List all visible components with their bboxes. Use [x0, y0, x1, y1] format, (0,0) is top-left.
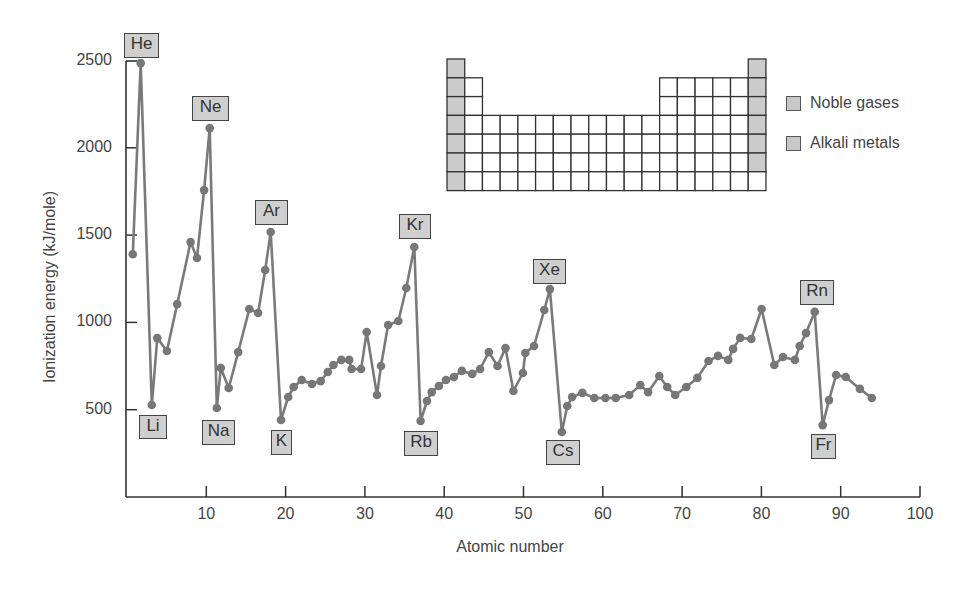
x-tick-label: 30 [345, 505, 385, 523]
data-point [791, 356, 800, 365]
data-point [163, 347, 172, 356]
label-li: Li [139, 415, 167, 439]
noble-cell [748, 78, 766, 97]
table-cell [482, 172, 500, 191]
table-cell [677, 115, 695, 134]
data-point [818, 421, 827, 430]
data-point [245, 305, 254, 314]
table-cell [695, 172, 713, 191]
data-point [284, 393, 293, 402]
data-point [410, 243, 419, 252]
data-point [578, 389, 587, 398]
table-cell [660, 97, 678, 116]
table-cell [642, 134, 660, 153]
data-point [373, 391, 382, 400]
table-cell [677, 134, 695, 153]
data-point [458, 367, 467, 376]
data-point [362, 328, 371, 337]
noble-cell [748, 97, 766, 116]
data-point [377, 362, 386, 371]
alkali-cell [447, 153, 465, 172]
alkali-cell [447, 59, 465, 78]
data-point [423, 397, 432, 406]
x-tick-label: 50 [504, 505, 544, 523]
legend: Noble gases Alkali metals [786, 92, 900, 172]
data-point [868, 394, 877, 403]
data-point [234, 348, 243, 357]
noble-cell [748, 134, 766, 153]
data-point [671, 391, 680, 400]
data-point [509, 387, 518, 396]
data-point [682, 383, 691, 392]
data-point [563, 402, 572, 411]
table-cell [731, 153, 749, 172]
data-point [611, 394, 620, 403]
data-point [442, 376, 451, 385]
table-cell [465, 153, 483, 172]
x-tick-label: 60 [583, 505, 623, 523]
x-tick-label: 70 [662, 505, 702, 523]
data-point [476, 365, 485, 374]
data-point [205, 124, 214, 133]
y-tick-label: 500 [52, 400, 112, 418]
table-cell [624, 115, 642, 134]
table-cell [731, 134, 749, 153]
x-tick-label: 20 [266, 505, 306, 523]
data-point [729, 345, 738, 354]
data-point [724, 356, 733, 365]
table-cell [500, 115, 518, 134]
data-point [277, 416, 286, 425]
y-tick-label: 2500 [52, 51, 112, 69]
data-point [308, 380, 317, 389]
data-point [261, 266, 270, 275]
table-cell [660, 115, 678, 134]
table-cell [660, 78, 678, 97]
table-cell [713, 97, 731, 116]
data-point [779, 353, 788, 362]
alkali-cell [447, 97, 465, 116]
table-cell [624, 172, 642, 191]
alkali-cell [447, 172, 465, 191]
table-cell [518, 172, 536, 191]
label-rb: Rb [404, 431, 438, 456]
data-point [558, 428, 567, 437]
table-cell [571, 153, 589, 172]
table-cell [500, 172, 518, 191]
table-cell [500, 134, 518, 153]
label-na: Na [202, 420, 235, 445]
table-cell [589, 115, 607, 134]
table-cell [731, 115, 749, 134]
table-cell [482, 134, 500, 153]
table-cell [677, 78, 695, 97]
table-cell [677, 153, 695, 172]
data-point [337, 356, 346, 365]
y-tick-label: 1500 [52, 225, 112, 243]
table-cell [695, 153, 713, 172]
table-cell [677, 97, 695, 116]
data-point [856, 385, 865, 394]
data-point [841, 373, 850, 382]
table-cell [695, 134, 713, 153]
data-point [568, 393, 577, 402]
data-point [289, 383, 298, 392]
x-tick-label: 90 [821, 505, 861, 523]
x-tick-label: 100 [900, 505, 940, 523]
data-point [519, 369, 528, 378]
data-point [802, 329, 811, 338]
data-point [435, 382, 444, 391]
data-point [329, 361, 338, 370]
data-point [747, 335, 756, 344]
table-cell [518, 115, 536, 134]
table-cell [589, 134, 607, 153]
legend-label-noble-gases: Noble gases [810, 94, 899, 112]
x-ticks [206, 486, 920, 497]
table-cell [536, 115, 554, 134]
table-cell [606, 153, 624, 172]
table-cell [713, 172, 731, 191]
data-point [200, 186, 209, 195]
data-point [501, 344, 510, 353]
table-cell [536, 172, 554, 191]
data-point [655, 372, 664, 381]
table-cell [465, 78, 483, 97]
data-point [450, 373, 459, 382]
